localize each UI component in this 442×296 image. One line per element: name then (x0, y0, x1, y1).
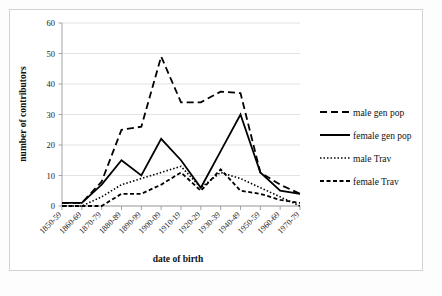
line-chart: 1850-591860-691870-791880-891890-991900-… (0, 0, 442, 296)
y-tick-label: 30 (47, 110, 56, 120)
y-tick-label: 60 (47, 18, 56, 28)
series-line-male-trav (62, 166, 300, 206)
y-tick-labels-group: 0102030405060 (47, 18, 56, 211)
y-tick-label: 40 (47, 79, 56, 89)
y-tick-label: 10 (47, 171, 56, 181)
series-line-male-gen-pop (62, 57, 300, 203)
gridlines-group (62, 23, 300, 206)
y-axis-ticks-group (59, 23, 63, 206)
y-tick-label: 50 (47, 49, 56, 59)
chart-figure: 1850-591860-691870-791880-891890-991900-… (0, 0, 442, 296)
legend-label-female-gen-pop: female gen pop (353, 131, 412, 141)
cropped-caption-artifact (0, 277, 442, 296)
legend-label-female-trav: female Trav (353, 177, 399, 187)
x-axis-title: date of birth (153, 254, 204, 264)
legend-label-male-trav: male Trav (353, 154, 392, 164)
y-tick-label: 20 (47, 140, 56, 150)
x-tick-label: 1970-79 (276, 210, 302, 236)
data-series-group (62, 57, 300, 206)
y-tick-label: 0 (51, 201, 55, 211)
y-axis-title: number of contributors (18, 66, 28, 162)
legend: male gen popfemale gen popmale Travfemal… (320, 108, 412, 187)
x-tick-labels-group: 1850-591860-691870-791880-891890-991900-… (38, 210, 302, 236)
legend-label-male-gen-pop: male gen pop (353, 108, 404, 118)
